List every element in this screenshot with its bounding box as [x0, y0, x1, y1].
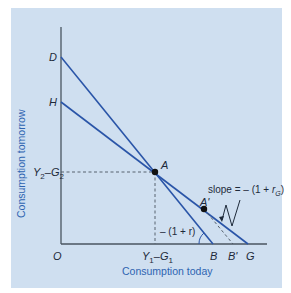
angle-annotation: – (1 + r): [160, 227, 195, 237]
label-origin: O: [53, 251, 62, 262]
arrowhead-icon: [219, 216, 224, 222]
label-D: D: [49, 52, 57, 63]
angle-arc-icon: [199, 233, 204, 244]
y-tick-label: Y2–G2: [33, 167, 64, 181]
slope-annotation: slope = – (1 + rG): [208, 185, 284, 197]
label-B-prime: B': [228, 251, 237, 262]
y-axis-title: Consumption tomorrow: [16, 109, 27, 218]
x-tick-label: Y1–G1: [142, 251, 173, 265]
label-B: B: [210, 251, 217, 262]
label-H: H: [49, 97, 57, 108]
squiggle-arrow-icon: [222, 200, 240, 226]
point-A: [152, 169, 158, 175]
label-A: A: [161, 160, 168, 171]
label-G: G: [246, 251, 255, 262]
budget-line-DB: [61, 57, 213, 244]
label-A-prime: A': [200, 197, 209, 208]
x-axis-title: Consumption today: [122, 266, 212, 277]
